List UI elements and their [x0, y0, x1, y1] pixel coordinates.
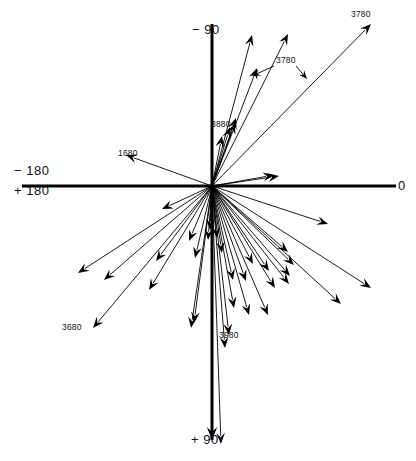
- annotation-leader-line: [296, 66, 304, 75]
- leaders-layer: [252, 66, 307, 79]
- vector-arrowhead: [279, 34, 288, 46]
- vector-arrowhead: [265, 276, 275, 288]
- vector-label-ann-3880: 3880: [211, 119, 231, 129]
- vector-shaft: [212, 43, 250, 186]
- vector-arrowhead: [149, 278, 158, 290]
- vector-label-ann-3780: 3780: [276, 55, 296, 65]
- vector-label-ann-1680: 1680: [118, 148, 138, 158]
- annotation-leader-line: [257, 66, 274, 74]
- vector-label-ann-3680: 3680: [62, 322, 82, 332]
- vector-arrowhead: [359, 278, 371, 288]
- axis-label-plus-180: + 180: [14, 183, 49, 198]
- vector-arrowhead: [78, 263, 90, 273]
- vector-label-ann-3980: 3980: [219, 330, 239, 340]
- vector-shaft: [212, 186, 285, 270]
- vector-plot-canvas: [0, 0, 416, 461]
- vector-shaft: [110, 186, 212, 275]
- vector-shaft: [212, 186, 364, 284]
- vector-label-ann-3780-top: 3780: [351, 9, 371, 19]
- axis-label-plus-90: + 90: [191, 432, 219, 447]
- vector-shaft: [134, 158, 212, 186]
- vectors-layer: [78, 24, 371, 444]
- vector-shaft: [212, 41, 284, 186]
- vector-shaft: [153, 186, 212, 283]
- axis-label-minus-180: − 180: [14, 163, 49, 178]
- vector-shaft: [212, 186, 284, 278]
- vector-arrowhead: [104, 269, 115, 280]
- vector-arrowhead: [93, 317, 103, 328]
- polar-vector-figure: − 900− 180+ 180+ 90 37803780388016803680…: [0, 0, 416, 461]
- vector-shaft: [212, 30, 365, 186]
- axes-layer: [22, 24, 396, 440]
- vector-shaft: [85, 186, 212, 269]
- axis-label-zero: 0: [398, 178, 406, 193]
- axis-label-minus-90: − 90: [192, 22, 220, 37]
